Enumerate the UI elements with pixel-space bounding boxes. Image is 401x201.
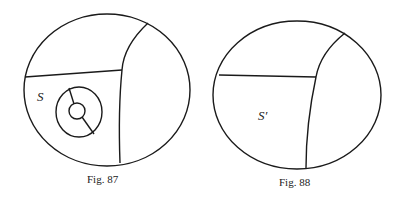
horizontal-divider (25, 70, 122, 77)
figure-87: S Fig. 87 (24, 14, 190, 185)
caption-fig-88: Fig. 88 (279, 176, 311, 188)
horizontal-divider (219, 75, 316, 77)
vertical-curve-divider (119, 23, 148, 163)
figure-88: S′ Fig. 88 (213, 21, 381, 188)
outer-oval (24, 14, 190, 166)
ring-cut-lower (82, 117, 94, 134)
inner-ring-outer (56, 87, 102, 137)
ring-cut-upper (69, 88, 74, 104)
inner-ring-hole (69, 103, 85, 119)
region-label-s-prime: S′ (258, 108, 268, 123)
region-label-s: S (37, 89, 44, 104)
vertical-curve-divider (306, 33, 345, 168)
caption-fig-87: Fig. 87 (87, 173, 119, 185)
figures-canvas: S Fig. 87 S′ Fig. 88 (0, 0, 401, 201)
outer-oval (213, 21, 381, 169)
